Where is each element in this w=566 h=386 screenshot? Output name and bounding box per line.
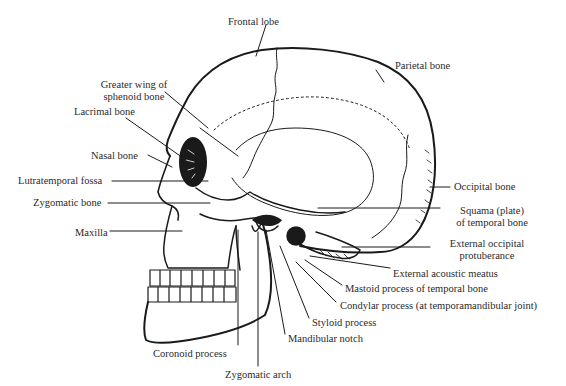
lower-teeth <box>148 287 236 302</box>
mandible-outline <box>144 222 271 343</box>
label-parietal-bone: Parietal bone <box>395 60 450 72</box>
label-coronoid-process: Coronoid process <box>153 348 227 360</box>
label-lacrimal-bone: Lacrimal bone <box>74 106 135 118</box>
label-lutratemporal-fossa: Lutratemporal fossa <box>18 175 102 187</box>
squamous-suture <box>232 128 373 215</box>
zygomatic-outline <box>196 188 345 213</box>
label-mandibular-notch: Mandibular notch <box>288 333 363 345</box>
label-zygomatic-arch: Zygomatic arch <box>225 369 291 381</box>
label-nasal-bone: Nasal bone <box>91 150 138 162</box>
maxilla-outline <box>164 206 236 268</box>
upper-teeth <box>150 270 235 286</box>
label-greater-wing-sphenoid: Greater wing ofsphenoid bone <box>88 79 180 103</box>
label-frontal-lobe: Frontal lobe <box>228 16 279 28</box>
skull-illustration <box>0 0 566 386</box>
label-external-occipital-protuberance: External occipitalprotuberance <box>434 238 540 262</box>
coronal-suture <box>243 48 277 178</box>
skull-diagram: Frontal lobeParietal boneGreater wing of… <box>0 0 566 386</box>
label-mastoid-process: Mastoid process of temporal bone <box>345 283 488 295</box>
occipital-hatching <box>416 150 432 223</box>
label-squama-temporal: Squama (plate)of temporal bone <box>444 205 540 229</box>
cranium-outline <box>183 48 435 252</box>
label-styloid-process: Styloid process <box>312 317 376 329</box>
ear-canal <box>287 227 305 245</box>
label-condylar-process: Condylar process (at temporamandibular j… <box>340 300 537 312</box>
label-maxilla: Maxilla <box>75 227 108 239</box>
label-occipital-bone: Occipital bone <box>454 181 516 193</box>
temporal-line <box>214 97 410 150</box>
label-zygomatic-bone: Zygomatic bone <box>33 197 102 209</box>
label-external-acoustic-meatus: External acoustic meatus <box>393 268 498 280</box>
lambdoid-suture <box>372 135 408 238</box>
